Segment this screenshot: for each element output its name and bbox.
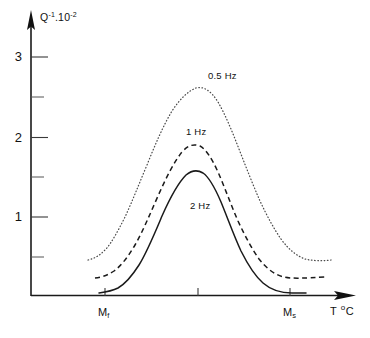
curve-label-0-5-hz: 0.5 Hz [208, 71, 237, 81]
x-axis-title: T oC [330, 306, 354, 317]
x-marker-ms: Ms [283, 307, 296, 318]
x-marker-ms-main: M [283, 306, 292, 318]
chart-canvas [0, 0, 370, 338]
x-marker-mf-main: M [98, 306, 107, 318]
curve-2-hz [99, 171, 306, 293]
curve-label-2-hz: 2 Hz [190, 201, 210, 211]
y-axis-title: Q-1.10-2 [40, 12, 77, 23]
x-axis-title-t: T [330, 305, 337, 317]
internal-friction-chart: Q-1.10-2 3 2 1 0.5 Hz 1 Hz 2 Hz Mf Ms T … [0, 0, 370, 338]
y-tick-label-3: 3 [2, 50, 22, 63]
y-axis-title-exp1: -1 [48, 11, 55, 18]
y-axis-title-exp2: -2 [70, 11, 77, 18]
y-tick-label-1: 1 [2, 210, 22, 223]
x-marker-mf-sub: f [107, 311, 109, 320]
x-axis-title-unit: C [346, 305, 354, 317]
curve-0-5-hz [88, 88, 331, 261]
curve-label-1-hz: 1 Hz [186, 127, 206, 137]
y-tick-label-2: 2 [2, 131, 22, 144]
y-axis-title-mid: .10 [55, 11, 70, 23]
x-marker-mf: Mf [98, 307, 109, 318]
x-marker-ms-sub: s [292, 311, 296, 320]
curve-1-hz [95, 145, 325, 278]
